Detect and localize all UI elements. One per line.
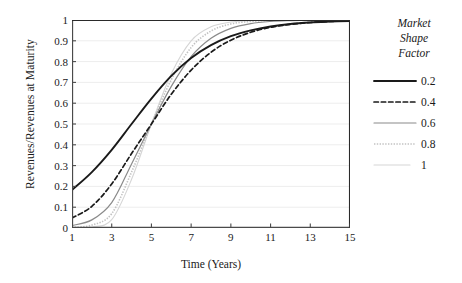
y-tick-label: 0.7 — [34, 77, 68, 88]
legend-title: MarketShapeFactor — [372, 16, 456, 62]
y-tick-label: 0.6 — [34, 98, 68, 109]
chart-figure: Revenues/Revenues at Maturity Time (Year… — [0, 0, 462, 283]
plot-svg — [72, 20, 350, 228]
x-axis-title: Time (Years) — [72, 258, 350, 270]
curve-0.4 — [72, 21, 350, 218]
legend-item-label: 0.2 — [418, 75, 435, 87]
plot-area — [72, 20, 350, 228]
x-tick-label: 13 — [295, 232, 325, 243]
y-tick-label: 1 — [34, 15, 68, 26]
legend-line-swatch — [372, 138, 418, 150]
x-axis-tick-labels: 13579111315 — [72, 232, 350, 248]
legend-item-0.6[interactable]: 0.6 — [372, 113, 456, 134]
x-tick-label: 9 — [216, 232, 246, 243]
y-tick-label: 0.1 — [34, 202, 68, 213]
legend-line-swatch — [372, 96, 418, 108]
y-tick-label: 0.8 — [34, 56, 68, 67]
legend-line-swatch — [372, 75, 418, 87]
y-tick-label: 0.3 — [34, 160, 68, 171]
x-tick-label: 5 — [136, 232, 166, 243]
legend-line-swatch — [372, 159, 412, 171]
y-tick-label: 0.4 — [34, 139, 68, 150]
x-tick-label: 1 — [57, 232, 87, 243]
x-tick-label: 3 — [97, 232, 127, 243]
legend-item-label: 0.4 — [418, 96, 435, 108]
legend-item-0.2[interactable]: 0.2 — [372, 71, 456, 92]
x-tick-label: 15 — [335, 232, 365, 243]
curve-0.6 — [72, 20, 350, 226]
legend-item-1[interactable]: 1 — [372, 155, 456, 176]
legend-item-label: 0.6 — [418, 117, 435, 129]
legend-item-label: 0.8 — [418, 138, 435, 150]
legend-item-0.4[interactable]: 0.4 — [372, 92, 456, 113]
x-tick-label: 11 — [256, 232, 286, 243]
x-tick-label: 7 — [176, 232, 206, 243]
y-tick-label: 0.5 — [34, 119, 68, 130]
y-axis-tick-labels: 00.10.20.30.40.50.60.70.80.91 — [30, 20, 68, 228]
legend-item-0.8[interactable]: 0.8 — [372, 134, 456, 155]
legend-line-swatch — [372, 117, 418, 129]
legend-rows: 0.20.40.60.81 — [372, 71, 456, 176]
y-tick-label: 0.2 — [34, 181, 68, 192]
legend-item-label: 1 — [412, 159, 427, 171]
y-tick-label: 0.9 — [34, 35, 68, 46]
legend: MarketShapeFactor 0.20.40.60.81 — [372, 16, 456, 176]
curve-0.2 — [72, 21, 350, 190]
